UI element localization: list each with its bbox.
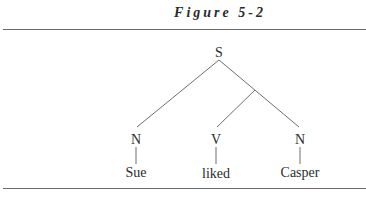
word-sue: Sue [126,165,147,180]
node-s: S [215,45,223,60]
node-n-casper: N [295,132,305,147]
word-liked: liked [202,166,230,181]
word-casper: Casper [281,165,320,180]
bottom-rule [3,188,366,189]
edge-s-n1 [137,60,219,127]
edge-s-node [219,60,299,127]
edge-node-v [217,90,255,127]
node-v: V [211,132,221,147]
syntax-tree: S N V N Sue liked Casper [0,0,366,200]
node-n-sue: N [131,132,141,147]
